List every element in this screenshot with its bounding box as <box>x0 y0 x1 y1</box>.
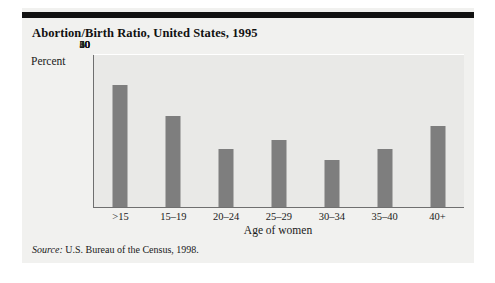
bar <box>271 140 286 207</box>
bar-cell: >15 <box>94 55 147 207</box>
bar-cell: 35–40 <box>358 55 411 207</box>
y-axis-tick-label: 60 <box>80 39 91 50</box>
bar <box>219 149 234 207</box>
bar <box>377 149 392 207</box>
x-axis-tick-label: 20–24 <box>213 211 239 222</box>
bar-cell: 20–24 <box>200 55 253 207</box>
bar-cell: 25–29 <box>253 55 306 207</box>
bar <box>324 160 339 207</box>
bar <box>113 85 128 207</box>
y-axis-title: Percent <box>31 55 65 67</box>
source-text: U.S. Bureau of the Census, 1998. <box>63 244 199 255</box>
bar-cell: 15–19 <box>147 55 200 207</box>
bar-cell: 40+ <box>411 55 464 207</box>
x-axis-tick-label: 15–19 <box>160 211 186 222</box>
top-rule <box>22 12 474 18</box>
bar-group: >1515–1920–2425–2930–3435–4040+ <box>94 55 464 207</box>
bar <box>430 126 445 207</box>
x-axis-tick-label: 40+ <box>429 211 445 222</box>
source-note: Source: U.S. Bureau of the Census, 1998. <box>32 244 199 255</box>
x-axis-title: Age of women <box>93 224 463 236</box>
plot-area: 0102030405060 >1515–1920–2425–2930–3435–… <box>93 55 464 208</box>
x-axis-tick-label: 25–29 <box>266 211 292 222</box>
chart-title: Abortion/Birth Ratio, United States, 199… <box>32 26 258 41</box>
figure-container: Abortion/Birth Ratio, United States, 199… <box>0 0 495 283</box>
bar-cell: 30–34 <box>305 55 358 207</box>
bar <box>166 116 181 207</box>
x-axis-tick-label: 35–40 <box>372 211 398 222</box>
source-label: Source: <box>32 244 63 255</box>
x-axis-tick-label: 30–34 <box>319 211 345 222</box>
x-axis-tick-label: >15 <box>112 211 128 222</box>
